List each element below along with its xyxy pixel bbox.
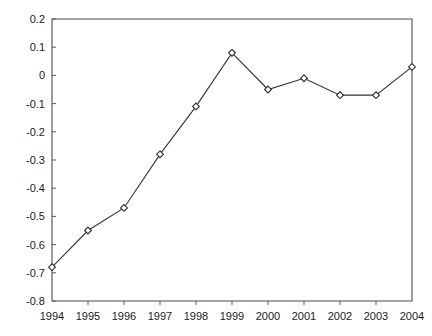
y-axis-tick-label: -0.2 (26, 126, 45, 138)
y-axis-tick-label: 0.1 (30, 41, 45, 53)
line-chart: 0.20.10-0.1-0.2-0.3-0.4-0.5-0.6-0.7-0.81… (0, 0, 432, 336)
series-line (52, 53, 412, 267)
x-axis-tick-label: 2002 (328, 310, 352, 322)
x-axis-tick-label: 1998 (184, 310, 208, 322)
y-axis-tick-label: -0.5 (26, 210, 45, 222)
x-axis-tick-label: 1995 (76, 310, 100, 322)
y-axis-tick-label: -0.8 (26, 295, 45, 307)
x-axis-tick-label: 2000 (256, 310, 280, 322)
x-axis-tick-label: 1994 (40, 310, 64, 322)
data-point-marker (301, 75, 308, 82)
x-axis-tick-label: 1997 (148, 310, 172, 322)
y-axis-tick-label: -0.7 (26, 267, 45, 279)
y-axis-tick-label: 0 (39, 69, 45, 81)
y-axis-tick-label: -0.1 (26, 98, 45, 110)
x-axis-tick-label: 1999 (220, 310, 244, 322)
y-axis-tick-label: -0.4 (26, 182, 45, 194)
x-axis-tick-label: 2004 (400, 310, 424, 322)
y-axis-tick-label: -0.3 (26, 154, 45, 166)
x-axis-tick-label: 2001 (292, 310, 316, 322)
y-axis-tick-label: 0.2 (30, 13, 45, 25)
plot-frame (52, 19, 412, 301)
chart-screenshot: 0.20.10-0.1-0.2-0.3-0.4-0.5-0.6-0.7-0.81… (0, 0, 432, 336)
data-point-marker (337, 92, 344, 99)
y-axis-tick-label: -0.6 (26, 239, 45, 251)
x-axis-tick-label: 1996 (112, 310, 136, 322)
x-axis-tick-label: 2003 (364, 310, 388, 322)
data-point-marker (121, 205, 128, 212)
